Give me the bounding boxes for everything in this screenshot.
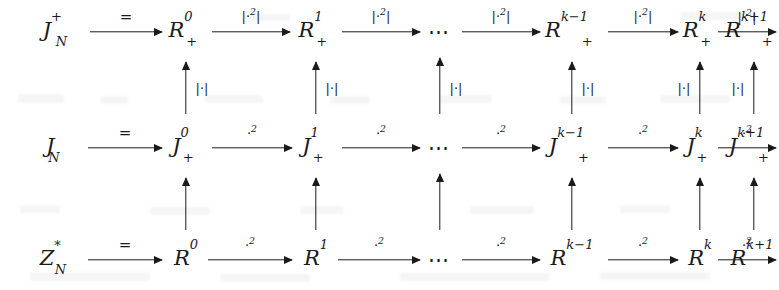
sup-mid-0: 0 (181, 124, 189, 139)
node-top-km1: Rk−1+ (545, 20, 599, 41)
sup-bot-k: k (704, 236, 712, 251)
arrow-top-k-to-kp1 (718, 27, 776, 37)
arrow-bot-km1-to-k (608, 255, 678, 265)
page-smudge (330, 96, 370, 104)
vertical-arrow-lower-3 (567, 178, 577, 230)
arrow-label-bot-2: ·2 (374, 239, 384, 252)
arrow-bot-k-to-kp1-label: ·2 (742, 239, 752, 252)
node-bot-k: Rk (688, 248, 712, 269)
arrow-label-top-1: |·2| (242, 10, 261, 23)
arrow-bot-0-to-1 (208, 255, 292, 265)
sub-top-k: + (700, 34, 711, 49)
vertical-arrow-lower-0 (181, 178, 191, 230)
vertical-arrow-lower-4 (695, 178, 705, 230)
page-smudge (470, 206, 534, 214)
node-top-k: Rk+ (683, 20, 718, 41)
arrow-top-0-to-1 (212, 27, 290, 37)
arrow-top-1-to-dots (342, 27, 420, 37)
arrow-label-mid-1: ·2 (247, 127, 257, 140)
sup-bot-source: * (54, 237, 61, 252)
vertical-arrow-upper-1 (311, 62, 321, 114)
vertical-arrow-label-upper-4: |·| (678, 82, 691, 95)
sub-mid-source: N (48, 150, 59, 165)
vertical-arrow-upper-4 (695, 62, 705, 114)
arrow-mid-1-to-dots (342, 143, 420, 153)
vertical-arrow-label-upper-5: |·| (732, 82, 745, 95)
vertical-arrow-label-upper-0: |·| (196, 82, 209, 95)
node-top-dots: ⋯ (428, 22, 452, 43)
arrow-mid-source-to-0 (88, 143, 162, 153)
arrow-mid-dots-to-km1 (462, 143, 540, 153)
node-top-1: R1+ (299, 20, 334, 41)
vertical-arrow-lower-5 (749, 178, 759, 230)
node-mid-km1: Jk−1+ (549, 136, 595, 157)
sub-mid-1: + (313, 150, 324, 165)
sup-mid-k: k (695, 124, 703, 139)
node-mid-0: J0+ (172, 136, 200, 157)
vertical-arrow-upper-2 (435, 58, 445, 114)
arrow-label-mid-3: ·2 (496, 127, 506, 140)
sup-top-km1: k−1 (561, 8, 588, 23)
node-top-source: J+N (43, 20, 74, 41)
arrow-bot-1-to-dots (338, 255, 420, 265)
node-mid-dots: ⋯ (428, 138, 452, 159)
vertical-arrow-upper-0 (181, 62, 191, 114)
arrow-label-mid-4: ·2 (638, 127, 648, 140)
page-smudge (600, 272, 710, 280)
vertical-arrow-label-upper-3: |·| (582, 82, 595, 95)
node-bot-km1: Rk−1 (551, 248, 594, 269)
node-bot-1: R1 (304, 248, 328, 269)
arrow-label-bot-0: = (119, 238, 132, 253)
sub-mid-0: + (183, 150, 194, 165)
sup-top-1: 1 (314, 8, 322, 23)
arrow-top-k-to-kp1-label: |·2| (738, 11, 757, 24)
arrow-label-mid-2: ·2 (376, 127, 386, 140)
sub-mid-k: + (696, 150, 707, 165)
node-top-0: R0+ (169, 20, 204, 41)
page-smudge (20, 205, 60, 213)
arrow-label-bot-1: ·2 (245, 239, 255, 252)
vertical-arrow-label-upper-1: |·| (326, 82, 339, 95)
arrow-top-km1-to-k (608, 27, 678, 37)
arrow-bot-dots-to-km1 (462, 255, 540, 265)
sup-mid-km1: k−1 (557, 124, 584, 139)
page-smudge (220, 274, 310, 282)
node-bot-dots: ⋯ (428, 250, 452, 271)
node-bot-0: R0 (174, 248, 198, 269)
sub-mid-km1: + (578, 150, 589, 165)
arrow-mid-k-to-kp1-label: ·2 (742, 127, 752, 140)
vertical-arrow-lower-2 (435, 174, 445, 230)
sup-mid-1: 1 (311, 124, 319, 139)
arrow-bot-k-to-kp1 (718, 255, 776, 265)
sup-top-0: 0 (184, 8, 192, 23)
arrow-label-top-3: |·2| (492, 10, 511, 23)
sub-top-1: + (316, 34, 327, 49)
page-smudge (100, 96, 128, 104)
page-smudge (205, 95, 263, 103)
page-smudge (30, 272, 150, 281)
sub-top-km1: + (582, 34, 593, 49)
node-mid-k: Jk+ (686, 136, 713, 157)
page-smudge (440, 95, 492, 103)
node-mid-source: JN (46, 136, 66, 157)
sup-bot-km1: k−1 (566, 236, 593, 251)
sub-top-source: N (56, 34, 67, 49)
arrow-top-dots-to-km1 (462, 27, 540, 37)
vertical-arrow-upper-5 (749, 62, 759, 114)
sup-top-source: + (51, 8, 62, 23)
page-smudge (300, 206, 344, 214)
page-smudge (150, 207, 210, 215)
sup-bot-1: 1 (320, 236, 328, 251)
arrow-label-top-0: = (120, 10, 133, 25)
page-smudge (400, 273, 550, 281)
vertical-arrow-label-upper-2: |·| (450, 82, 463, 95)
sub-bot-source: N (55, 262, 66, 277)
sup-top-k: k (699, 8, 707, 23)
arrow-mid-km1-to-k (608, 143, 678, 153)
vertical-arrow-lower-1 (311, 178, 321, 230)
arrow-mid-0-to-1 (212, 143, 292, 153)
arrow-mid-k-to-kp1 (718, 143, 776, 153)
arrow-label-bot-4: ·2 (638, 239, 648, 252)
arrow-bot-source-to-0 (88, 255, 162, 265)
